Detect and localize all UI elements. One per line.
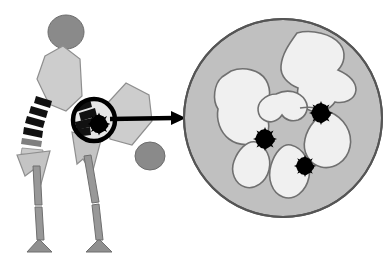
inflammation-flare-upper-right: [309, 101, 333, 125]
lens-inflammation-flare: [88, 113, 111, 136]
magnifier-lens[interactable]: [72, 98, 116, 142]
upright-head: [48, 15, 84, 49]
flexed-head: [135, 142, 165, 170]
upright-tibia: [35, 207, 44, 240]
anatomical-illustration-canvas: [0, 0, 388, 263]
inflammation-flare-lower: [294, 155, 316, 177]
arrow-shaft: [110, 118, 174, 119]
inflammation-flare-left: [253, 127, 277, 151]
illustration-root: Spinal posture comparison with magnified…: [0, 0, 388, 263]
upright-femur: [33, 166, 42, 205]
magnified-inset: [184, 19, 382, 217]
